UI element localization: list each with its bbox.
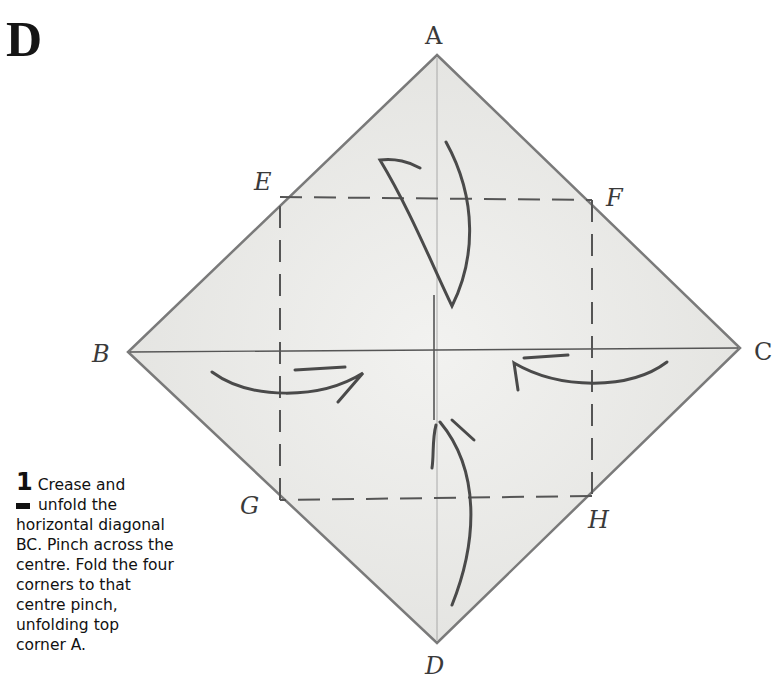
- label-a: A: [424, 22, 443, 50]
- label-d: D: [424, 652, 444, 680]
- label-h: H: [587, 506, 610, 534]
- instruction-line-7: centre pinch,: [16, 595, 246, 615]
- instruction-line-8: unfolding top: [16, 615, 246, 635]
- label-c: C: [754, 338, 772, 366]
- instruction-line-3: horizontal diagonal: [16, 515, 246, 535]
- label-f: F: [605, 184, 624, 212]
- label-e: E: [253, 168, 272, 196]
- step-number: 1: [16, 472, 33, 492]
- instruction-line-9: corner A.: [16, 635, 246, 655]
- instruction-line-6: corners to that: [16, 575, 246, 595]
- step-instructions: 1 Crease and unfold the horizontal diago…: [16, 472, 246, 655]
- instruction-line-4: BC. Pinch across the: [16, 535, 246, 555]
- label-b: B: [91, 340, 110, 368]
- instruction-line-2: unfold the: [16, 495, 246, 515]
- instruction-line-1: 1 Crease and: [16, 472, 246, 495]
- instruction-line-5: centre. Fold the four: [16, 555, 246, 575]
